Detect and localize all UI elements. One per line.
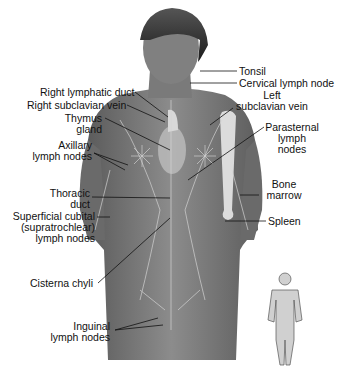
thoracic-line2: duct (40, 199, 90, 210)
label-superficial-cubital-lymph-nodes: Superficial cubital (supratrochlear) lym… (2, 211, 95, 244)
label-parasternal-lymph-nodes: Parasternal lymph nodes (262, 122, 322, 155)
axillary-line2: lymph nodes (30, 151, 92, 162)
label-cisterna-chyli: Cisterna chyli (30, 278, 93, 289)
label-thoracic-duct: Thoracic duct (40, 188, 90, 210)
label-left-subclavian-vein: Left subclavian vein (234, 90, 310, 112)
left-subclavian-line2: subclavian vein (234, 101, 310, 112)
thymus-line2: gland (62, 124, 102, 135)
label-tonsil: Tonsil (239, 66, 266, 77)
superficial-line3: lymph nodes (2, 233, 95, 244)
inset-figure-icon (268, 273, 302, 365)
label-axillary-lymph-nodes: Axillary lymph nodes (30, 140, 92, 162)
label-bone-marrow: Bone marrow (262, 179, 306, 201)
parasternal-line3: nodes (262, 144, 322, 155)
label-spleen: Spleen (268, 216, 301, 227)
label-right-lymphatic-duct: Right lymphatic duct (40, 87, 135, 98)
bone-marrow-line2: marrow (262, 190, 306, 201)
inguinal-line2: lymph nodes (45, 332, 110, 343)
lymphatic-diagram: Right lymphatic duct Right subclavian ve… (0, 0, 339, 369)
label-inguinal-lymph-nodes: Inguinal lymph nodes (45, 321, 110, 343)
label-thymus-gland: Thymus gland (62, 113, 102, 135)
label-right-subclavian-vein: Right subclavian vein (27, 100, 126, 111)
label-cervical-lymph-node: Cervical lymph node (239, 78, 334, 89)
